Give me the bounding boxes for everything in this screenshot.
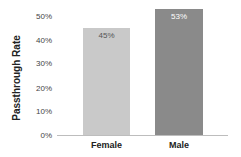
bar-value-label-female: 45% [83,31,130,40]
y-axis-label: Passthrough Rate [11,35,22,121]
y-tick-0: 0% [30,131,52,140]
x-tick-male: Male [155,140,203,150]
y-tick-20: 20% [30,84,52,93]
x-tick-female: Female [83,140,130,150]
y-tick-10: 10% [30,107,52,116]
y-tick-30: 30% [30,59,52,68]
bar-chart: Passthrough Rate 0% 10% 20% 30% 40% 50% … [0,0,241,157]
y-tick-40: 40% [30,36,52,45]
bar-male: 53% [155,9,203,135]
bar-female: 45% [83,28,130,135]
y-tick-50: 50% [30,12,52,21]
bar-value-label-male: 53% [155,12,203,21]
x-axis-line [57,135,228,136]
